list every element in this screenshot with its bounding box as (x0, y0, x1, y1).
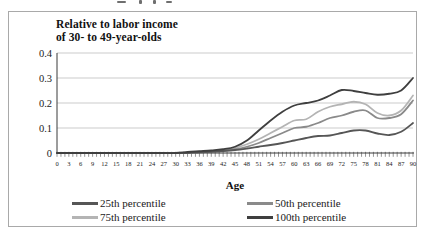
chart-legend: 25th percentile 50th percentile 75th per… (70, 195, 410, 225)
legend-swatch-100th-line (247, 216, 273, 219)
legend-item-100th: 100th percentile (247, 210, 346, 224)
legend-item-25th: 25th percentile (72, 196, 166, 210)
legend-item-75th: 75th percentile (72, 210, 166, 224)
legend-label-25th: 25th percentile (100, 197, 166, 209)
legend-label-100th: 100th percentile (275, 211, 346, 223)
chart-title: Relative to labor income of 30- to 49-ye… (56, 18, 178, 44)
legend-swatch-25th-line (72, 202, 98, 205)
legend-swatch-50th-line (247, 202, 273, 205)
legend-item-50th: 50th percentile (247, 196, 341, 210)
legend-swatch-75th-line (72, 216, 98, 219)
x-axis-title: Age (57, 179, 413, 191)
legend-label-50th: 50th percentile (275, 197, 341, 209)
chart-title-line2: of 30- to 49-year-olds (56, 31, 178, 44)
chart-title-line1: Relative to labor income (56, 18, 178, 31)
legend-label-75th: 75th percentile (100, 211, 166, 223)
